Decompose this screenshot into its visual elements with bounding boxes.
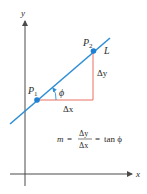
y-axis-label: y	[20, 8, 25, 18]
delta-y-label: Δy	[97, 68, 108, 78]
svg-text:m: m	[57, 134, 64, 144]
svg-text:tan ϕ: tan ϕ	[104, 134, 122, 144]
angle-label: ϕ	[59, 87, 64, 98]
svg-text:=: =	[95, 134, 100, 144]
p1-label: P1	[27, 85, 38, 98]
delta-x-label: Δx	[63, 104, 74, 114]
x-axis-label: x	[135, 169, 140, 179]
line-label: L	[103, 45, 110, 56]
slope-diagram: y x P1 P2 L ϕ Δx Δy m = Δy Δx = tan ϕ	[0, 0, 147, 194]
angle-arc	[53, 88, 56, 100]
svg-text:Δy: Δy	[79, 129, 88, 138]
slope-formula: m = Δy Δx = tan ϕ	[57, 129, 122, 150]
svg-text:Δx: Δx	[79, 141, 88, 150]
svg-text:=: =	[67, 134, 72, 144]
point-p1	[34, 97, 40, 103]
p2-label: P2	[82, 37, 93, 50]
